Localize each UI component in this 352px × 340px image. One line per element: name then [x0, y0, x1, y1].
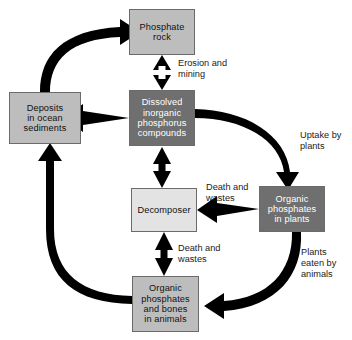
node-decomposer[interactable]: Decomposer — [131, 188, 197, 232]
node-phosphate-rock-label: Phosphate rock — [140, 22, 185, 43]
node-decomposer-label: Decomposer — [137, 205, 190, 215]
edge-label-uptake-by-plants: Uptake by plants — [300, 130, 341, 152]
arrow-animals-to-deposits — [38, 143, 132, 304]
node-plants-label: Organic phosphates in plants — [268, 194, 317, 225]
node-phosphate-rock[interactable]: Phosphate rock — [129, 9, 195, 55]
edge-label-death-and-wastes-animals: Death and wastes — [178, 243, 220, 265]
arrow-dissolved-to-plants — [195, 109, 299, 190]
node-organic-phosphates-and-bones-in-animals[interactable]: Organic phosphates and bones in animals — [132, 276, 199, 332]
arrow-dissolved-decomposer — [153, 147, 171, 188]
node-organic-phosphates-in-plants[interactable]: Organic phosphates in plants — [259, 186, 325, 232]
node-animals-label: Organic phosphates and bones in animals — [141, 283, 190, 324]
node-deposits-label: Deposits in ocean sediments — [24, 103, 67, 134]
node-deposits-in-ocean-sediments[interactable]: Deposits in ocean sediments — [9, 92, 81, 144]
arrow-animals-decomposer — [155, 232, 173, 276]
node-dissolved-inorganic-phosphorus-compounds[interactable]: Dissolved inorganic phosphorus compounds — [129, 90, 195, 146]
edge-label-plants-eaten-by-animals: Plants eaten by animals — [301, 247, 336, 280]
arrow-deposits-to-rock — [40, 19, 140, 92]
node-dissolved-label: Dissolved inorganic phosphorus compounds — [137, 97, 186, 138]
arrow-rock-dissolved — [153, 55, 171, 90]
edge-label-death-and-wastes-plants: Death and wastes — [206, 182, 248, 204]
phosphorus-cycle-diagram: Phosphate rock Deposits in ocean sedimen… — [0, 0, 352, 340]
edge-label-erosion-and-mining: Erosion and mining — [178, 58, 227, 80]
